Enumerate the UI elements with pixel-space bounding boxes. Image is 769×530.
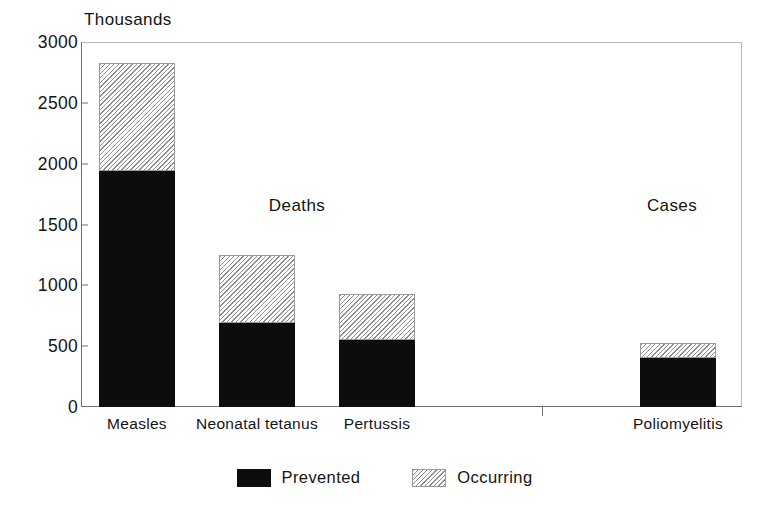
bar-pertussis[interactable] — [339, 294, 415, 407]
y-tick-label-500: 500 — [6, 336, 78, 357]
y-tick-label-2500: 2500 — [6, 92, 78, 113]
bar-poliomyelitis-prevented-segment — [640, 358, 716, 407]
bar-measles[interactable] — [99, 63, 175, 407]
hatched-swatch-icon — [412, 469, 446, 487]
bar-poliomyelitis[interactable] — [640, 343, 716, 408]
bar-measles-prevented-segment — [99, 171, 175, 407]
legend-label-occurring: Occurring — [457, 468, 532, 487]
stacked-bar-chart: Thousands 3000 2500 2000 1500 1000 500 0 — [0, 0, 769, 530]
x-label-neonatal-tetanus: Neonatal tetanus — [196, 415, 318, 433]
y-tick-label-1500: 1500 — [6, 214, 78, 235]
solid-black-swatch-icon — [237, 469, 271, 487]
y-axis: 3000 2500 2000 1500 1000 500 0 — [0, 42, 78, 407]
chart-legend: Prevented Occurring — [0, 468, 769, 487]
legend-item-prevented[interactable]: Prevented — [237, 468, 361, 487]
annotation-cases: Cases — [647, 196, 697, 216]
legend-label-prevented: Prevented — [282, 468, 361, 487]
bar-neonatal-tetanus-occurring-segment — [219, 255, 295, 323]
y-axis-unit-label: Thousands — [84, 10, 172, 30]
y-tick-label-0: 0 — [6, 397, 78, 418]
bar-neonatal-tetanus[interactable] — [219, 255, 295, 407]
bar-poliomyelitis-occurring-segment — [640, 343, 716, 359]
bar-pertussis-prevented-segment — [339, 340, 415, 407]
x-label-measles: Measles — [107, 415, 167, 433]
group-separator-tick — [542, 407, 543, 416]
y-tick-label-3000: 3000 — [6, 32, 78, 53]
bar-pertussis-occurring-segment — [339, 294, 415, 340]
y-tick-label-2000: 2000 — [6, 153, 78, 174]
x-label-pertussis: Pertussis — [344, 415, 410, 433]
y-tick-label-1000: 1000 — [6, 275, 78, 296]
legend-item-occurring[interactable]: Occurring — [412, 468, 532, 487]
x-label-poliomyelitis: Poliomyelitis — [633, 415, 723, 433]
bar-measles-occurring-segment — [99, 63, 175, 171]
bars-layer — [81, 42, 742, 407]
bar-neonatal-tetanus-prevented-segment — [219, 323, 295, 407]
annotation-deaths: Deaths — [269, 196, 325, 216]
